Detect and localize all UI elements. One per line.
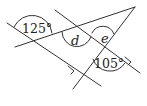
diagram-svg: 125° d e 105° xyxy=(0,0,147,106)
geometry-diagram: 125° d e 105° xyxy=(0,0,147,106)
transversal-line-d xyxy=(73,7,135,89)
angle-d-label: d xyxy=(71,33,79,48)
angle-125-label: 125° xyxy=(22,21,52,36)
angle-e-label: e xyxy=(101,31,109,46)
angle-105-label: 105° xyxy=(94,56,124,71)
